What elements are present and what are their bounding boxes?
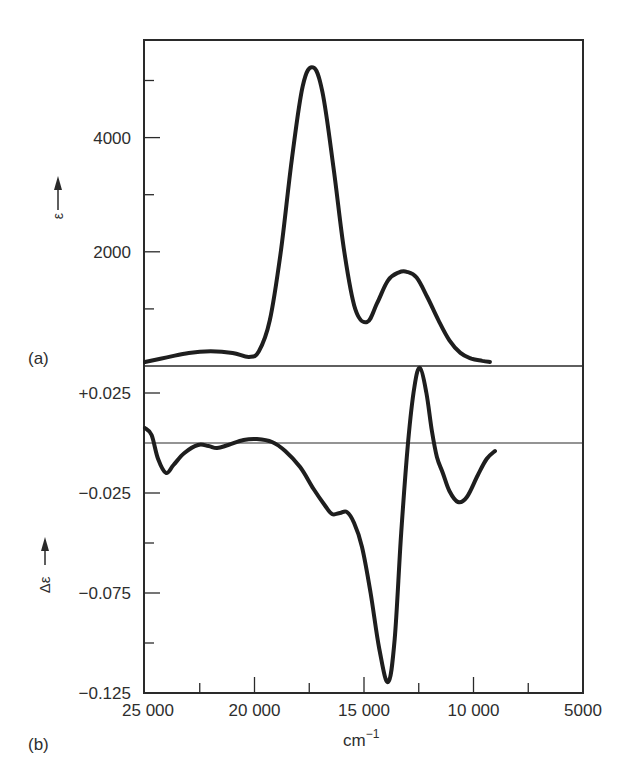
y-tick-label: 4000: [93, 129, 131, 148]
y-axis-label-a: ε: [50, 176, 66, 219]
x-tick-label: 10 000: [448, 701, 500, 720]
arrow-head-icon: [41, 537, 49, 551]
panel-a-label: (a): [28, 349, 49, 368]
spectrum-figure: 20004000 +0.025−0.025−0.075−0.125 25 000…: [0, 0, 632, 781]
x-tick-label: 20 000: [229, 701, 281, 720]
x-tick-label: 25 000: [122, 701, 174, 720]
absorption-curve: [145, 67, 490, 362]
y-ticks-panel-a: 20004000: [93, 81, 160, 309]
y-tick-label: −0.025: [79, 484, 131, 503]
x-axis-unit: cm: [343, 731, 366, 750]
cd-curve: [145, 368, 495, 682]
x-tick-label: 15 000: [338, 701, 390, 720]
chart-canvas: 20004000 +0.025−0.025−0.075−0.125 25 000…: [0, 0, 632, 781]
x-ticks: 25 00020 00015 00010 0005000: [122, 677, 602, 720]
y-tick-label: −0.075: [79, 584, 131, 603]
y-axis-label-b: Δε: [36, 537, 53, 593]
x-axis-label: cm−1: [343, 727, 380, 750]
epsilon-label: ε: [50, 213, 66, 219]
panel-b-label: (b): [28, 735, 49, 754]
delta-epsilon-label: Δε: [36, 576, 53, 593]
x-tick-label: 5000: [564, 701, 602, 720]
x-axis-unit-exponent: −1: [366, 727, 380, 741]
y-tick-label: 2000: [93, 243, 131, 262]
arrow-head-icon: [54, 176, 62, 190]
y-tick-label: +0.025: [79, 384, 131, 403]
